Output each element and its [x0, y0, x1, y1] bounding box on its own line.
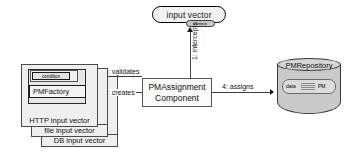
repository-connector-line: [301, 83, 315, 84]
message-label-validates: 2: validates: [103, 68, 140, 75]
assigns-arrowhead-icon: [270, 89, 274, 95]
repository-connector-line: [301, 85, 315, 86]
condition-box[interactable]: condition: [32, 72, 70, 80]
pmfactory-box[interactable]: PMFactory: [29, 85, 86, 98]
message-label-intercepts: 1: intercepts: [191, 21, 201, 61]
message-label-assigns: 4: assigns: [221, 83, 255, 90]
component-line-1: PMAssignment: [148, 82, 205, 93]
diagram-canvas: input vector context 1: intercepts DB in…: [0, 0, 359, 156]
assigns-connector-line: [212, 92, 272, 93]
pmrepository-label: PMRepository: [279, 60, 339, 70]
db-input-vector-side-panel: [108, 71, 118, 135]
repository-connector-line: [301, 87, 315, 88]
pmassignment-component-node[interactable]: PMAssignment Component: [142, 78, 212, 107]
repository-data-label: data: [286, 83, 296, 89]
component-line-2: Component: [155, 93, 199, 104]
repository-connector-line: [301, 89, 315, 90]
repository-pm-label: PM: [318, 83, 326, 89]
file-input-vector-side-panel: [98, 68, 108, 125]
